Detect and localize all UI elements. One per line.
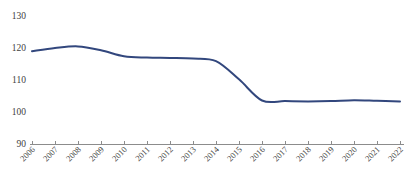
x-tick-label: 2012 (156, 144, 175, 163)
x-tick-label: 2014 (202, 144, 222, 164)
x-tick-label: 2013 (179, 144, 198, 163)
data-series-group (32, 46, 400, 102)
x-axis-tick-labels: 2006200720082009201020112012201320142015… (18, 144, 405, 164)
y-tick-label: 120 (12, 43, 27, 53)
x-axis: 2006200720082009201020112012201320142015… (18, 141, 405, 164)
y-tick-label: 90 (17, 139, 27, 149)
x-tick-label: 2018 (294, 144, 313, 163)
y-tick-label: 110 (12, 75, 26, 85)
x-tick-label: 2008 (64, 144, 83, 163)
y-tick-label: 130 (12, 11, 27, 21)
x-tick-label: 2017 (271, 144, 290, 163)
x-tick-label: 2016 (248, 144, 267, 163)
series-line-index (32, 46, 400, 102)
y-axis-tick-labels: 13012011010090 (12, 11, 27, 149)
y-tick-label: 100 (12, 107, 27, 117)
x-tick-label: 2020 (340, 144, 359, 163)
x-tick-label: 2019 (317, 144, 336, 163)
x-tick-label: 2022 (386, 144, 405, 163)
x-tick-label: 2010 (110, 144, 129, 163)
x-tick-label: 2021 (363, 144, 382, 163)
line-chart: 13012011010090 2006200720082009201020112… (0, 0, 410, 181)
chart-canvas: 13012011010090 2006200720082009201020112… (0, 0, 410, 181)
x-tick-label: 2011 (133, 144, 152, 163)
x-tick-label: 2009 (87, 144, 106, 163)
x-tick-label: 2015 (225, 144, 244, 163)
x-tick-label: 2007 (41, 144, 60, 163)
x-axis-tick-marks (33, 141, 401, 145)
